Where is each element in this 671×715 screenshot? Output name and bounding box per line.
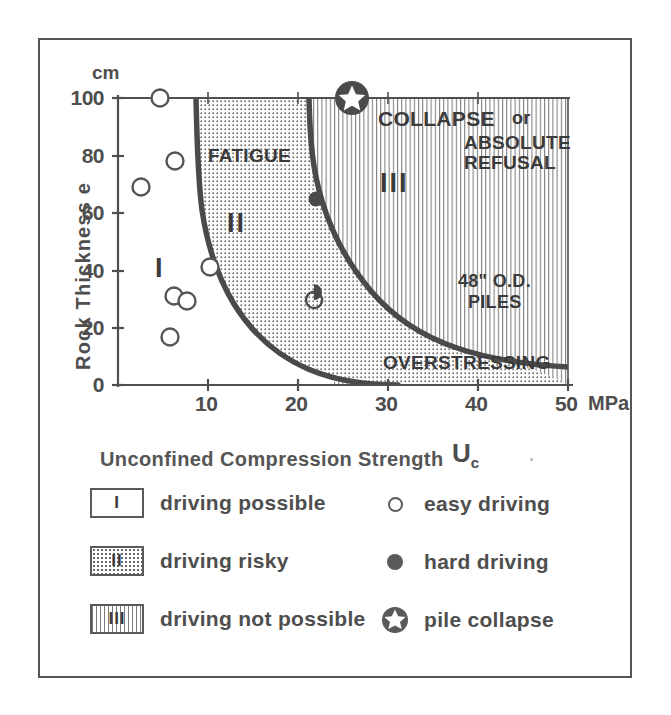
y-tick-80: 80 xyxy=(48,144,104,168)
legend-label-zone-3: driving not possible xyxy=(160,607,366,631)
y-axis-unit: cm xyxy=(92,62,119,84)
data-point-easy xyxy=(133,179,150,196)
legend-label-easy-driving: easy driving xyxy=(424,492,550,516)
y-tick-0: 0 xyxy=(48,373,104,397)
annotation-absolute: ABSOLUTE xyxy=(464,133,571,153)
annotation-refusal: REFUSAL xyxy=(464,153,556,173)
filled-circle-icon xyxy=(380,554,410,570)
page-speck xyxy=(530,458,533,461)
legend-item-easy-driving: easy driving xyxy=(380,492,550,516)
legend: I driving possible II driving risky III … xyxy=(40,440,634,680)
x-tick-10: 10 xyxy=(195,392,217,416)
zone-label-3: III xyxy=(380,168,409,199)
legend-label-hard-driving: hard driving xyxy=(424,550,549,574)
data-point-easy xyxy=(167,153,184,170)
figure-frame: 100 80 60 40 20 0 10 20 30 40 50 cm MPa … xyxy=(38,38,632,678)
x-tick-20: 20 xyxy=(285,392,307,416)
y-axis-label: Rock Thickness e xyxy=(72,182,95,370)
open-circle-icon xyxy=(380,497,410,512)
annotation-fatigue: FATIGUE xyxy=(208,145,291,167)
x-tick-40: 40 xyxy=(465,392,487,416)
annotation-pile-size: 48" O.D. xyxy=(458,272,531,291)
legend-item-hard-driving: hard driving xyxy=(380,550,549,574)
legend-item-zone-1: I driving possible xyxy=(90,488,326,518)
plot-area: 100 80 60 40 20 0 10 20 30 40 50 cm MPa … xyxy=(40,40,634,440)
y-tick-100: 100 xyxy=(48,86,104,110)
legend-item-pile-collapse: pile collapse xyxy=(380,606,554,634)
legend-swatch-zone-2: II xyxy=(90,546,144,576)
x-tick-50: 50 xyxy=(555,392,577,416)
data-point-easy xyxy=(202,259,219,276)
data-point-hard xyxy=(309,192,324,207)
legend-item-zone-2: II driving risky xyxy=(90,546,289,576)
annotation-or: or xyxy=(512,108,531,129)
data-point-easy xyxy=(162,329,179,346)
data-point-easy xyxy=(179,293,196,310)
annotation-piles: PILES xyxy=(468,293,522,312)
x-tick-30: 30 xyxy=(375,392,397,416)
star-circle-icon xyxy=(380,606,410,634)
legend-label-pile-collapse: pile collapse xyxy=(424,608,554,632)
zone-label-2: II xyxy=(227,208,246,239)
annotation-overstressing: OVERSTRESSING xyxy=(383,352,551,374)
legend-swatch-symbol: III xyxy=(108,609,125,629)
legend-swatch-symbol: II xyxy=(111,551,122,571)
legend-label-zone-2: driving risky xyxy=(160,549,289,573)
legend-swatch-zone-3: III xyxy=(90,604,144,634)
annotation-collapse: COLLAPSE xyxy=(378,107,495,131)
legend-label-zone-1: driving possible xyxy=(160,491,326,515)
legend-swatch-zone-1: I xyxy=(90,488,144,518)
zone-label-1: I xyxy=(155,253,165,284)
data-point-easy xyxy=(152,90,169,107)
data-point-pile-collapse xyxy=(335,81,369,115)
legend-item-zone-3: III driving not possible xyxy=(90,604,366,634)
legend-swatch-symbol: I xyxy=(114,493,120,513)
chart-svg xyxy=(40,40,634,440)
x-axis-unit: MPa xyxy=(588,392,629,415)
